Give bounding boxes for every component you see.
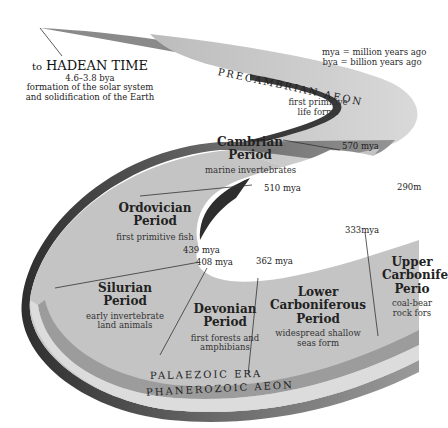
- period-devonian: Devonian Period first forests and amphib…: [180, 303, 270, 353]
- period-lower-carboniferous: Lower Carboniferous Period widespread sh…: [268, 286, 368, 348]
- hadean-prefix: to: [32, 61, 42, 72]
- boundary-label-333: 333mya: [345, 225, 379, 235]
- hadean-pointer: [40, 28, 62, 56]
- period-silurian: Silurian Period early invertebrate land …: [75, 282, 175, 331]
- boundary-label-362: 362 mya: [256, 256, 293, 266]
- boundary-label-290: 290m: [397, 182, 421, 192]
- period-cambrian: Cambrian Period marine invertebrates: [205, 136, 295, 175]
- legend: mya = million years ago bya = billion ye…: [322, 48, 422, 67]
- palaeozoic-era-label: PALAEZOIC ERA: [150, 368, 262, 381]
- hadean-name: HADEAN TIME: [46, 58, 148, 73]
- boundary-label-408: 408 mya: [196, 257, 233, 267]
- legend-bya: bya = billion years ago: [322, 58, 422, 68]
- boundary-label-510: 510 mya: [264, 183, 301, 193]
- hadean-title: to HADEAN TIME: [20, 59, 160, 74]
- hadean-desc-2: and solidification of the Earth: [20, 93, 160, 103]
- hadean-label: to HADEAN TIME 4.6–3.8 bya formation of …: [20, 59, 160, 102]
- precambrian-desc: first primitive life forms: [283, 98, 353, 117]
- boundary-label-439: 439 mya: [183, 245, 220, 255]
- period-ordovician: Ordovician Period first primitive fish: [100, 202, 210, 242]
- boundary-label-570: 570 mya: [342, 141, 379, 151]
- period-upper-carboniferous: Upper Carbonife Perio coal-bear rock for…: [382, 256, 442, 318]
